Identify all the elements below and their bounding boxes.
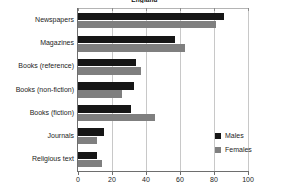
- axis-tick-mark-top: [180, 8, 181, 11]
- axis-tick-mark: [112, 172, 113, 175]
- bar-males-1: [78, 36, 175, 43]
- category-label: Religious text: [32, 155, 74, 163]
- x-tick-label: 100: [242, 176, 254, 184]
- x-tick-label: 0: [76, 176, 80, 184]
- value-axis-tick-labels: 020406080100: [0, 176, 289, 188]
- bar-females-0: [78, 21, 216, 28]
- axis-tick-mark: [214, 172, 215, 175]
- category-axis-labels: NewspapersMagazinesBooks (reference)Book…: [0, 9, 74, 171]
- x-tick-label: 80: [210, 176, 218, 184]
- bar-males-5: [78, 128, 104, 135]
- bar-chart: England NewspapersMagazinesBooks (refere…: [0, 0, 289, 191]
- axis-tick-mark-top: [146, 8, 147, 11]
- axis-tick-mark-top: [214, 8, 215, 11]
- x-tick-label: 60: [176, 176, 184, 184]
- x-tick-label: 40: [142, 176, 150, 184]
- category-label: Magazines: [40, 39, 74, 47]
- axis-tick-mark-top: [112, 8, 113, 11]
- plot-top-border: [78, 8, 249, 9]
- category-label: Books (non-fiction): [16, 86, 74, 94]
- axis-tick-mark: [78, 172, 79, 175]
- bar-females-1: [78, 44, 185, 51]
- chart-legend: MalesFemales: [215, 130, 277, 158]
- x-tick-label: 20: [108, 176, 116, 184]
- legend-swatch-icon: [215, 147, 221, 153]
- bar-females-3: [78, 90, 122, 97]
- bar-males-4: [78, 105, 131, 112]
- bar-females-2: [78, 67, 141, 74]
- bar-females-6: [78, 160, 102, 167]
- category-axis-line: [78, 171, 249, 172]
- axis-tick-mark-top: [248, 8, 249, 11]
- axis-tick-mark: [248, 172, 249, 175]
- gridline: [180, 9, 181, 171]
- legend-label: Females: [225, 146, 252, 154]
- bar-males-3: [78, 82, 134, 89]
- chart-title: England: [0, 0, 289, 3]
- legend-label: Males: [225, 132, 244, 140]
- bar-males-0: [78, 13, 224, 20]
- axis-tick-mark: [180, 172, 181, 175]
- bar-females-5: [78, 137, 97, 144]
- bar-males-2: [78, 59, 136, 66]
- legend-item[interactable]: Males: [215, 130, 277, 142]
- gridline: [146, 9, 147, 171]
- category-label: Journals: [48, 132, 74, 140]
- category-label: Books (reference): [18, 62, 74, 70]
- axis-tick-mark: [146, 172, 147, 175]
- bar-females-4: [78, 114, 155, 121]
- category-label: Newspapers: [35, 16, 74, 24]
- legend-swatch-icon: [215, 133, 221, 139]
- bar-males-6: [78, 152, 97, 159]
- legend-item[interactable]: Females: [215, 144, 277, 156]
- category-label: Books (fiction): [30, 109, 74, 117]
- axis-tick-mark-top: [78, 8, 79, 11]
